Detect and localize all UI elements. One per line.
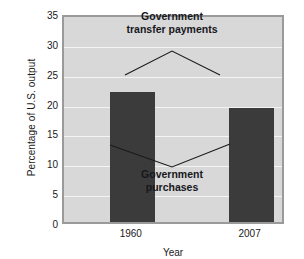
gridline-30 — [64, 47, 282, 48]
annotation-purchases-line-2: purchases — [112, 181, 232, 194]
x-axis-tick-2007: 2007 — [220, 228, 280, 239]
annotation-transfer-line-1: Government — [92, 10, 252, 23]
annotation-transfer-line-2: transfer payments — [92, 23, 252, 36]
y-axis-tick-labels: 05101520253035 — [20, 0, 58, 259]
annotation-purchases-line-1: Government — [112, 168, 232, 181]
gridline-25 — [64, 77, 282, 78]
y-axis-tick-35: 35 — [20, 10, 58, 21]
y-axis-tick-10: 10 — [20, 159, 58, 170]
annotation-government-purchases: Government purchases — [112, 168, 232, 194]
annotation-transfer-payments: Government transfer payments — [92, 10, 252, 36]
x-axis-tick-1960: 1960 — [101, 228, 161, 239]
y-axis-tick-15: 15 — [20, 129, 58, 140]
bar-2007 — [229, 108, 274, 222]
y-axis-tick-0: 0 — [20, 219, 58, 230]
y-axis-tick-25: 25 — [20, 69, 58, 80]
bar-1960 — [110, 92, 155, 222]
y-axis-tick-30: 30 — [20, 39, 58, 50]
x-axis-title: Year — [62, 247, 284, 258]
bar-chart-figure: Percentage of U.S. output 05101520253035… — [0, 0, 304, 259]
x-axis-tick-labels: 19602007 — [62, 228, 284, 244]
y-axis-tick-20: 20 — [20, 99, 58, 110]
y-axis-tick-5: 5 — [20, 189, 58, 200]
